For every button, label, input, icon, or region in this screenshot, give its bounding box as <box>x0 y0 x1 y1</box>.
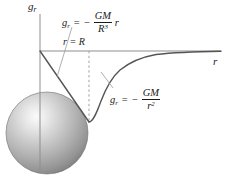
formula-inside-denominator-exponent: 3 <box>104 23 107 30</box>
formula-inside-sphere: gr = − GM R3 r <box>62 11 119 36</box>
formula-outside-denominator: r2 <box>142 100 160 112</box>
physics-figure: gr r r = R gr = − GM R3 r gr = − GM r2 <box>0 0 227 177</box>
formula-outside-equals: = <box>121 94 129 105</box>
formula-inside-lhs-sub: r <box>67 22 70 30</box>
vertical-axis-label: gr <box>28 1 36 12</box>
radius-marker-label: r = R <box>63 37 85 47</box>
formula-outside-lhs-sub: r <box>115 99 118 107</box>
formula-inside-trailing: r <box>115 17 119 28</box>
formula-inside-minus: − <box>83 17 91 28</box>
vertical-axis-label-base: g <box>28 0 34 12</box>
formula-outside-sphere: gr = − GM r2 <box>110 88 160 113</box>
formula-outside-fraction: GM r2 <box>142 87 160 112</box>
horizontal-axis-label: r <box>213 56 217 67</box>
sphere-body <box>6 92 88 174</box>
formula-outside-denominator-exponent: 2 <box>151 100 154 107</box>
formula-inside-numerator: GM <box>94 10 112 23</box>
formula-outside-numerator: GM <box>142 87 160 100</box>
formula-inside-equals: = <box>73 17 81 28</box>
vertical-axis-label-sub: r <box>34 5 37 14</box>
formula-inside-fraction: GM R3 <box>94 10 112 35</box>
formula-inside-denominator: R3 <box>94 23 112 35</box>
formula-outside-minus: − <box>131 94 139 105</box>
